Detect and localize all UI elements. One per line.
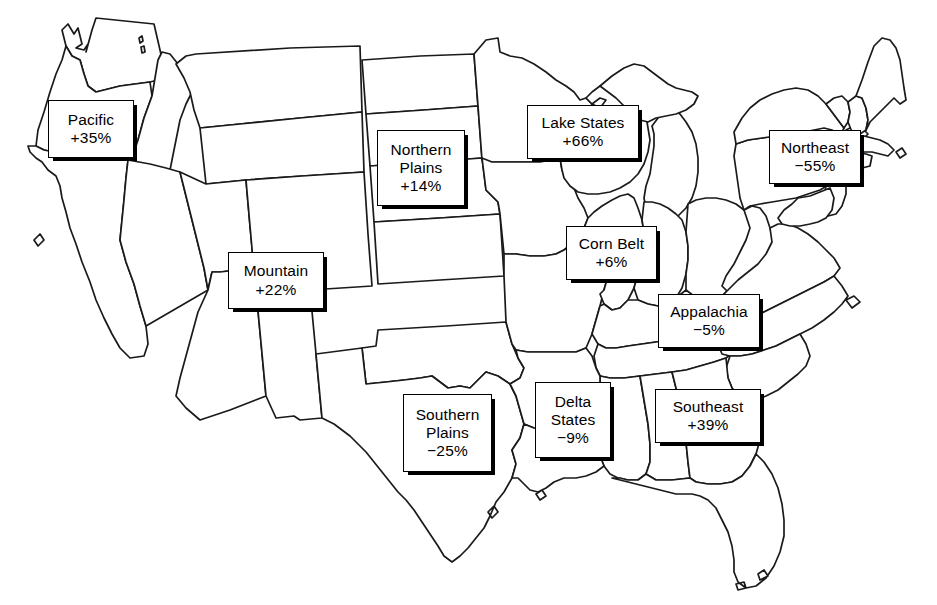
region-name: Northeast	[781, 139, 849, 157]
region-name: Mountain	[244, 262, 309, 280]
state-north-dakota	[362, 54, 478, 114]
region-name: Southeast	[673, 398, 744, 416]
region-value: −55%	[795, 157, 836, 175]
region-value: +14%	[401, 177, 442, 195]
region-label-appalachia[interactable]: Appalachia −5%	[658, 294, 760, 348]
region-label-northern-plains[interactable]: Northern Plains +14%	[377, 130, 465, 206]
state-washington-islands	[139, 36, 143, 43]
farm-production-regions-map: Pacific +35% Mountain +22% Northern Plai…	[0, 0, 937, 605]
state-kansas	[374, 214, 504, 284]
region-label-delta-states[interactable]: Delta States −9%	[535, 382, 611, 458]
state-washington-islet	[141, 46, 145, 53]
region-label-pacific[interactable]: Pacific +35%	[48, 100, 134, 158]
region-label-lake-states[interactable]: Lake States +66%	[527, 105, 639, 159]
region-value: +39%	[688, 416, 729, 434]
region-value: +35%	[71, 129, 112, 147]
region-name: Appalachia	[670, 303, 748, 321]
region-name: Lake States	[542, 114, 625, 132]
region-value: +6%	[595, 253, 627, 271]
region-name: Northern Plains	[390, 141, 451, 178]
region-label-southeast[interactable]: Southeast +39%	[655, 389, 761, 443]
region-value: +66%	[563, 132, 604, 150]
region-value: −5%	[693, 321, 725, 339]
region-value: −25%	[427, 442, 468, 460]
region-name: Pacific	[68, 111, 114, 129]
region-label-mountain[interactable]: Mountain +22%	[228, 252, 324, 309]
region-name: Delta States	[551, 393, 596, 430]
region-label-corn-belt[interactable]: Corn Belt +6%	[566, 226, 657, 280]
region-value: +22%	[256, 281, 297, 299]
region-name: Southern Plains	[416, 406, 480, 443]
usa-state-outlines	[0, 0, 937, 605]
region-label-southern-plains[interactable]: Southern Plains −25%	[403, 394, 492, 472]
region-label-northeast[interactable]: Northeast −55%	[769, 130, 861, 184]
region-value: −9%	[557, 429, 589, 447]
region-name: Corn Belt	[579, 235, 645, 253]
